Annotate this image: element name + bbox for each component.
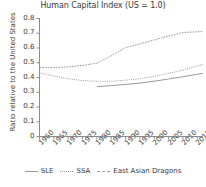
legend-label: SSA: [76, 167, 90, 175]
legend-label: East Asian Dragons: [113, 167, 181, 175]
chart-figure: Human Capital Index (US = 1.0) Ratio rel…: [0, 0, 206, 187]
series-lines: [40, 32, 204, 87]
plot-area: [0, 0, 206, 187]
legend-item-ssa[interactable]: SSA: [60, 167, 90, 175]
legend-item-east-asian-dragons[interactable]: East Asian Dragons: [97, 167, 181, 175]
legend-swatch-solid-line-icon: [25, 171, 38, 172]
axis-lines: [37, 18, 204, 140]
legend-swatch-dotted-line-icon: [60, 171, 73, 172]
legend-swatch-dashed-line-icon: [97, 171, 110, 172]
legend-label: SLE: [41, 167, 54, 175]
series-line-east-asian-dragons: [40, 32, 204, 68]
series-line-sle: [97, 73, 203, 86]
chart-legend: SLESSAEast Asian Dragons: [0, 167, 206, 175]
legend-item-sle[interactable]: SLE: [25, 167, 54, 175]
